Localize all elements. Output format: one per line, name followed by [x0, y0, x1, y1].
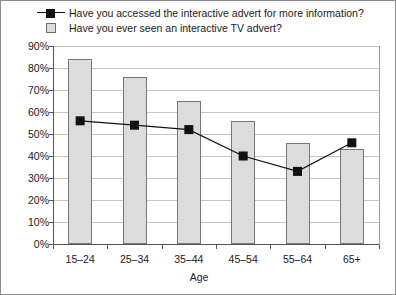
y-axis-tick-label: 30%: [5, 173, 49, 183]
legend-label-line-series: Have you accessed the interactive advert…: [65, 7, 364, 19]
x-axis-tick-label: 15–24: [53, 253, 107, 265]
y-axis-tick-label: 40%: [5, 151, 49, 161]
x-axis-tick-label: 25–34: [107, 253, 161, 265]
chart-container: Have you accessed the interactive advert…: [0, 0, 396, 295]
line-markers: [76, 116, 357, 176]
x-axis-tick-label: 45–54: [216, 253, 270, 265]
line-marker: [347, 138, 356, 147]
y-axis-tick-label: 80%: [5, 63, 49, 73]
x-axis-tick-label: 55–64: [270, 253, 324, 265]
line-marker: [76, 116, 85, 125]
line-marker: [130, 121, 139, 130]
line-marker: [184, 125, 193, 134]
y-axis-tick-label: 60%: [5, 107, 49, 117]
y-axis-labels: 90%80%70%60%50%40%30%20%10%0%: [1, 46, 49, 245]
legend-swatch-icon: [46, 23, 56, 33]
legend-key-bar-swatch: [37, 21, 65, 35]
y-axis-tick-label: 50%: [5, 129, 49, 139]
legend-item-bar-series: Have you ever seen an interactive TV adv…: [37, 21, 367, 35]
line-marker: [293, 167, 302, 176]
line-path: [80, 121, 352, 172]
y-axis-tick-label: 70%: [5, 85, 49, 95]
x-axis-line: [53, 244, 380, 245]
legend-key-line-marker: [37, 6, 65, 20]
plot-right-border: [379, 46, 380, 245]
y-axis-tick-label: 20%: [5, 195, 49, 205]
y-axis-line: [53, 46, 54, 245]
y-axis-tick-label: 0%: [5, 239, 49, 249]
legend-item-line-series: Have you accessed the interactive advert…: [37, 6, 367, 20]
x-axis-tick-label: 65+: [325, 253, 379, 265]
y-axis-tick-label: 10%: [5, 217, 49, 227]
legend-square-marker-icon: [46, 9, 55, 18]
x-axis-tick-label: 35–44: [162, 253, 216, 265]
line-series: [53, 46, 379, 244]
chart-legend: Have you accessed the interactive advert…: [37, 6, 367, 36]
y-axis-tick-label: 90%: [5, 41, 49, 51]
x-axis-title: Age: [1, 271, 396, 283]
line-marker: [239, 152, 248, 161]
legend-label-bar-series: Have you ever seen an interactive TV adv…: [65, 22, 282, 34]
